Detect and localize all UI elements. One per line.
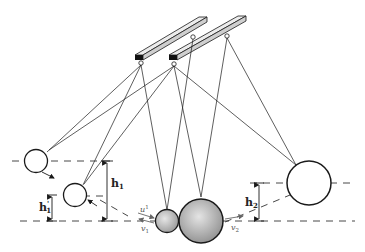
h1-label: h1: [111, 177, 124, 191]
small-sphere-start: [25, 150, 48, 173]
swing-arrow-rebound: [88, 200, 97, 206]
pendulum-diagram: h1 h'1 h2 u1 v1 v2: [0, 0, 365, 252]
large-sphere-final: [287, 161, 331, 205]
left-beam-hook-front: [139, 61, 143, 65]
small-sphere-rebound: [64, 184, 87, 207]
left-beam-hook-back: [191, 35, 195, 39]
u1-label: u1: [140, 204, 149, 214]
v1-label: v1: [141, 224, 149, 234]
h2-label: h2: [245, 196, 258, 210]
small-sphere-impact: [156, 210, 179, 233]
right-beam-hook-back: [225, 34, 229, 38]
right-support-beam: [169, 16, 246, 66]
h1-prime-label: h'1: [39, 199, 51, 215]
v2-label: v2: [231, 223, 239, 233]
h1-dimension: [101, 161, 113, 221]
swing-arrow-down: [42, 172, 54, 178]
large-sphere-impact: [179, 199, 223, 243]
right-beam-hook-front: [172, 62, 176, 66]
v2-arrow: [225, 216, 243, 219]
